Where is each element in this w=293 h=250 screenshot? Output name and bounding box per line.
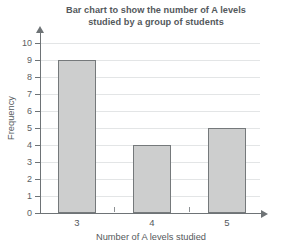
y-axis-tick-label: 0 <box>16 209 32 218</box>
y-axis-title: Frequency <box>6 88 16 148</box>
y-axis-tick <box>35 213 40 214</box>
x-axis-category-label: 3 <box>57 218 97 228</box>
gridline <box>41 43 260 44</box>
y-axis-tick-label: 9 <box>16 56 32 65</box>
bar-category-3 <box>58 60 96 213</box>
x-axis-tick <box>189 207 190 212</box>
y-axis-tick-label: 10 <box>16 39 32 48</box>
y-axis-tick-label: 6 <box>16 107 32 116</box>
y-axis-tick-label: 8 <box>16 73 32 82</box>
x-axis-tick <box>114 207 115 212</box>
y-axis-arrow-icon <box>36 26 44 33</box>
y-axis-tick <box>35 196 40 197</box>
y-axis-tick <box>35 94 40 95</box>
y-axis-tick <box>35 60 40 61</box>
y-axis-tick <box>35 77 40 78</box>
y-axis-tick <box>35 111 40 112</box>
y-axis-tick-label: 1 <box>16 192 32 201</box>
bar-category-5 <box>208 128 246 213</box>
y-axis-tick-label: 3 <box>16 158 32 167</box>
chart-title: Bar chart to show the number of A levels… <box>46 5 266 28</box>
y-axis-tick-label: 2 <box>16 175 32 184</box>
x-axis-category-label: 4 <box>132 218 172 228</box>
x-axis-title: Number of A levels studied <box>40 232 262 242</box>
bar-chart: Bar chart to show the number of A levels… <box>0 0 293 250</box>
y-axis-tick <box>35 43 40 44</box>
chart-title-line-2: studied by a group of students <box>46 17 266 29</box>
y-axis-tick-label: 4 <box>16 141 32 150</box>
y-axis-tick <box>35 179 40 180</box>
y-axis-tick <box>35 128 40 129</box>
y-axis-tick-label: 5 <box>16 124 32 133</box>
y-axis-tick <box>35 162 40 163</box>
bar-category-4 <box>133 145 171 213</box>
y-axis-tick <box>35 145 40 146</box>
x-axis-category-label: 5 <box>207 218 247 228</box>
chart-title-line-1: Bar chart to show the number of A levels <box>46 5 266 17</box>
x-axis-line <box>40 213 262 214</box>
x-axis-arrow-icon <box>261 210 268 218</box>
y-axis-tick-label: 7 <box>16 90 32 99</box>
